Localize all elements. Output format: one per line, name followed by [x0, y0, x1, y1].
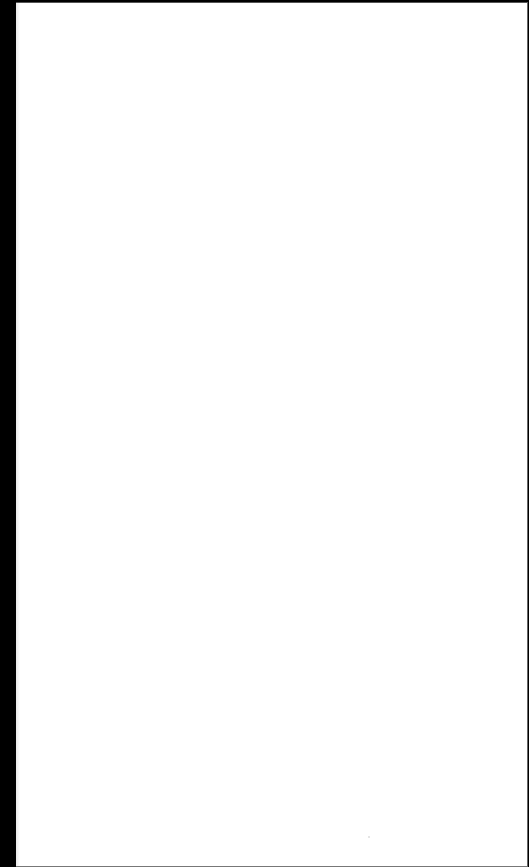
blank-page [16, 2, 528, 867]
page-edge-shading [16, 3, 20, 866]
scan-artifact-speck [368, 836, 370, 838]
